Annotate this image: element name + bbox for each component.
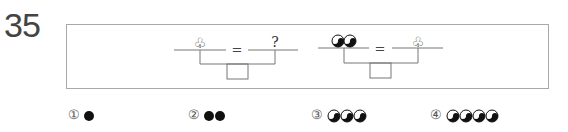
equals-sign: = — [232, 42, 243, 57]
option-4[interactable]: ④ — [430, 107, 442, 122]
blank-box — [370, 63, 391, 78]
equation-1: ♧ = ? — [174, 34, 298, 79]
equals-sign: = — [375, 41, 386, 56]
option-1[interactable]: ① — [68, 107, 80, 122]
option-marker: ① — [68, 107, 80, 122]
option-marker: ④ — [430, 107, 442, 122]
option-1-symbols — [84, 111, 94, 121]
option-3[interactable]: ③ — [311, 107, 323, 122]
balance-diagrams: ♧ = ? = ♧ — [0, 0, 568, 132]
equation-2: = ♧ — [318, 34, 443, 78]
blank-box — [227, 64, 248, 79]
option-4-symbols — [447, 110, 498, 122]
club-icon: ♧ — [412, 34, 425, 50]
option-2-symbols — [204, 111, 225, 121]
option-3-symbols — [328, 110, 366, 122]
club-icon: ♧ — [194, 35, 207, 51]
yin-yang-pair-icon — [332, 35, 356, 47]
option-2[interactable]: ② — [188, 107, 200, 122]
option-marker: ② — [188, 107, 200, 122]
question-mark: ? — [271, 34, 279, 50]
option-marker: ③ — [311, 107, 323, 122]
